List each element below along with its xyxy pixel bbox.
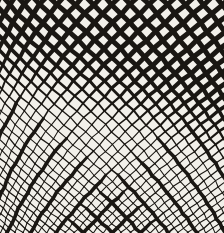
op-art-diamond-mesh — [0, 0, 224, 233]
diamond-mesh-svg — [0, 0, 224, 233]
